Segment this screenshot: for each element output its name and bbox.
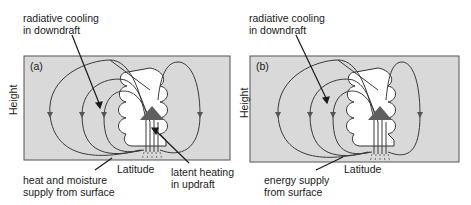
annotation-latent-heating: latent heatingin updraft <box>171 166 234 190</box>
panel-b: radiative coolingin downdraft (b) Height… <box>236 0 471 205</box>
annotation-energy-supply: energy supplyfrom surface <box>264 174 329 198</box>
annotation-radiative-cooling: radiative coolingin downdraft <box>23 12 99 36</box>
panel-tag: (b) <box>256 60 269 72</box>
y-axis-label: Height <box>238 88 250 118</box>
annotation-radiative-cooling: radiative coolingin downdraft <box>249 12 325 36</box>
y-axis-label: Height <box>7 85 19 115</box>
x-axis-label: Latitude <box>117 163 154 175</box>
panel-a: radiative coolingin downdraft (a) Height… <box>0 0 235 205</box>
panel-tag: (a) <box>30 60 43 72</box>
x-axis-label: Latitude <box>344 163 381 175</box>
annotation-surface-supply: heat and moisturesupply from surface <box>23 174 115 198</box>
